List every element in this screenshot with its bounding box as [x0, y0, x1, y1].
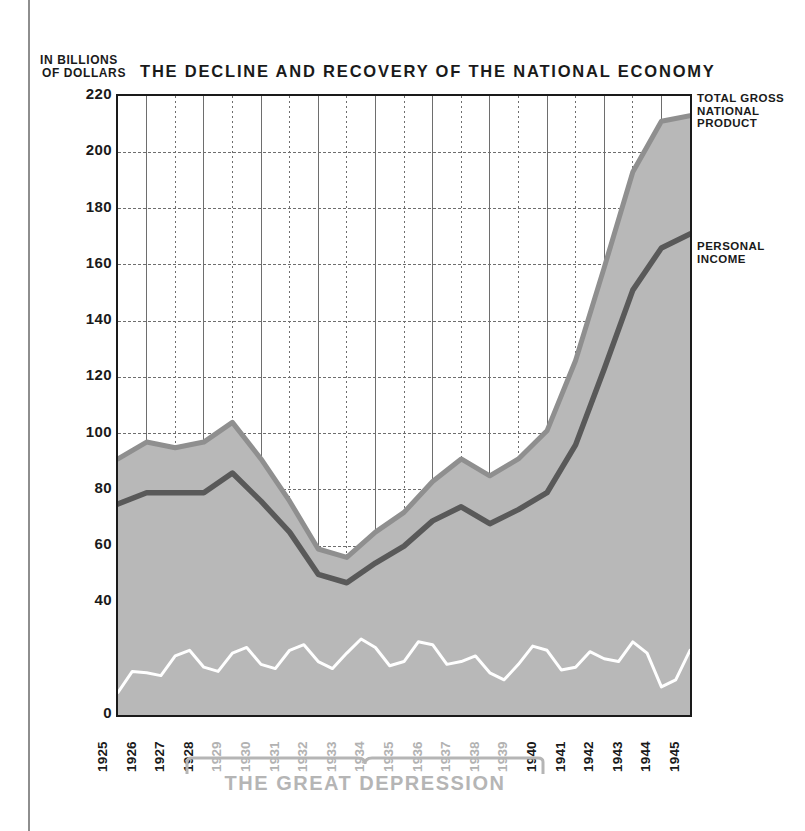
x-tick-1944: 1944: [638, 741, 653, 772]
chart-canvas: [118, 96, 690, 715]
y-tick-100: 100: [86, 424, 112, 439]
y-tick-140: 140: [86, 311, 112, 326]
plot-area: [116, 94, 692, 717]
gnp-label-line1: TOTAL GROSS: [697, 92, 802, 105]
x-tick-1925: 1925: [95, 741, 110, 772]
series-label-gross-national-product: TOTAL GROSS NATIONAL PRODUCT: [697, 92, 802, 130]
gnp-label-line2: NATIONAL: [697, 105, 802, 118]
gnp-label-line3: PRODUCT: [697, 117, 802, 130]
y-tick-200: 200: [86, 142, 112, 157]
x-tick-1941: 1941: [553, 741, 568, 772]
y-axis-caption: IN BILLIONS OF DOLLARS: [40, 54, 145, 80]
y-tick-40: 40: [95, 592, 113, 607]
y-axis-tick-labels: 0406080100120140160180200220: [58, 86, 112, 726]
pi-label-line1: PERSONAL: [697, 240, 802, 253]
x-tick-1943: 1943: [610, 741, 625, 772]
y-axis-caption-line2: OF DOLLARS: [40, 67, 145, 80]
series-label-personal-income: PERSONAL INCOME: [697, 240, 802, 265]
pi-label-line2: INCOME: [697, 253, 802, 266]
y-tick-160: 160: [86, 255, 112, 270]
page-margin-rule: [28, 0, 30, 831]
y-tick-120: 120: [86, 367, 112, 382]
x-tick-1927: 1927: [152, 741, 167, 772]
y-tick-0: 0: [103, 705, 112, 720]
x-tick-1945: 1945: [667, 741, 682, 772]
y-tick-180: 180: [86, 199, 112, 214]
y-tick-80: 80: [95, 480, 113, 495]
x-tick-1926: 1926: [124, 741, 139, 772]
y-tick-60: 60: [95, 536, 113, 551]
depression-label: THE GREAT DEPRESSION: [215, 772, 515, 795]
x-tick-1942: 1942: [581, 741, 596, 772]
chart-title: THE DECLINE AND RECOVERY OF THE NATIONAL…: [140, 62, 685, 81]
y-tick-220: 220: [86, 86, 112, 101]
